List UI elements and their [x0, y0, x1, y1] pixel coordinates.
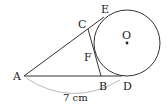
label-e: E — [101, 3, 109, 16]
label-c: C — [78, 18, 86, 31]
measurement-label: 7 cm — [63, 92, 88, 103]
center-dot — [126, 42, 129, 45]
geometry-diagram: A B C D E F O 7 cm — [0, 0, 168, 106]
label-b: B — [99, 80, 107, 93]
label-o: O — [122, 29, 131, 42]
label-f: F — [84, 51, 92, 64]
label-a: A — [12, 70, 22, 83]
label-d: D — [123, 80, 132, 93]
line-ae — [24, 17, 104, 76]
